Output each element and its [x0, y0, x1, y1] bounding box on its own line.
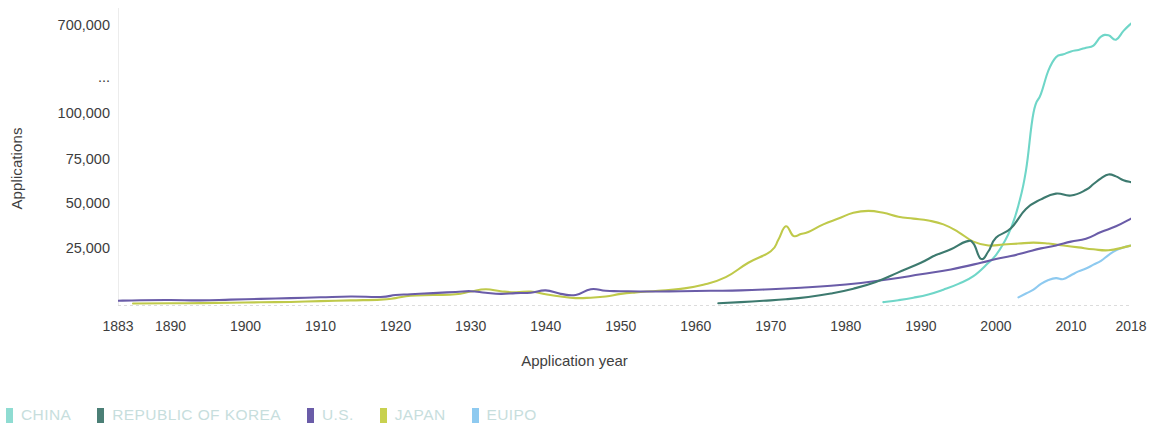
x-tick-1990: 1990: [905, 318, 936, 334]
x-tick-2010: 2010: [1055, 318, 1086, 334]
y-tick-50000: 50,000: [24, 196, 110, 210]
legend-swatch-icon: [380, 408, 387, 423]
series-line-republic-of-korea: [718, 174, 1131, 303]
legend-swatch-icon: [472, 408, 479, 423]
y-tick-75000: 75,000: [24, 152, 110, 166]
legend-label: CHINA: [21, 406, 71, 424]
legend-label: JAPAN: [395, 406, 446, 424]
x-tick-1883: 1883: [102, 318, 133, 334]
x-tick-1970: 1970: [755, 318, 786, 334]
x-tick-1930: 1930: [455, 318, 486, 334]
x-tick-2018: 2018: [1115, 318, 1146, 334]
x-tick-1900: 1900: [230, 318, 261, 334]
x-tick-1920: 1920: [380, 318, 411, 334]
chart-legend: CHINAREPUBLIC OF KOREAU.S.JAPANEUIPO: [6, 406, 563, 424]
legend-label: REPUBLIC OF KOREA: [112, 406, 281, 424]
patent-applications-line-chart: Applications 700,000 ... 100,000 75,000 …: [0, 0, 1149, 432]
y-tick-25000: 25,000: [24, 241, 110, 255]
legend-item-euipo[interactable]: EUIPO: [472, 406, 537, 424]
legend-label: U.S.: [322, 406, 354, 424]
x-tick-1960: 1960: [680, 318, 711, 334]
x-tick-1980: 1980: [830, 318, 861, 334]
x-tick-1940: 1940: [530, 318, 561, 334]
legend-item-china[interactable]: CHINA: [6, 406, 71, 424]
x-axis-title: Application year: [0, 352, 1149, 369]
legend-item-japan[interactable]: JAPAN: [380, 406, 446, 424]
plot-area: [118, 8, 1131, 306]
legend-label: EUIPO: [487, 406, 537, 424]
legend-item-u-s[interactable]: U.S.: [307, 406, 354, 424]
series-line-euipo: [1018, 245, 1131, 297]
x-tick-1890: 1890: [155, 318, 186, 334]
x-tick-1950: 1950: [605, 318, 636, 334]
legend-item-republic-of-korea[interactable]: REPUBLIC OF KOREA: [97, 406, 281, 424]
legend-swatch-icon: [97, 408, 104, 423]
series-canvas: [118, 8, 1131, 306]
series-line-japan: [133, 211, 1131, 304]
y-axis-tick-labels: 700,000 ... 100,000 75,000 50,000 25,000: [18, 0, 110, 320]
y-tick-100000: 100,000: [24, 106, 110, 120]
x-tick-1910: 1910: [305, 318, 336, 334]
series-line-china: [883, 24, 1131, 303]
series-line-u-s: [118, 219, 1131, 301]
legend-swatch-icon: [307, 408, 314, 423]
y-tick-700000: 700,000: [24, 18, 110, 32]
legend-swatch-icon: [6, 408, 13, 423]
x-tick-2000: 2000: [980, 318, 1011, 334]
y-tick-ellipsis: ...: [24, 70, 110, 84]
